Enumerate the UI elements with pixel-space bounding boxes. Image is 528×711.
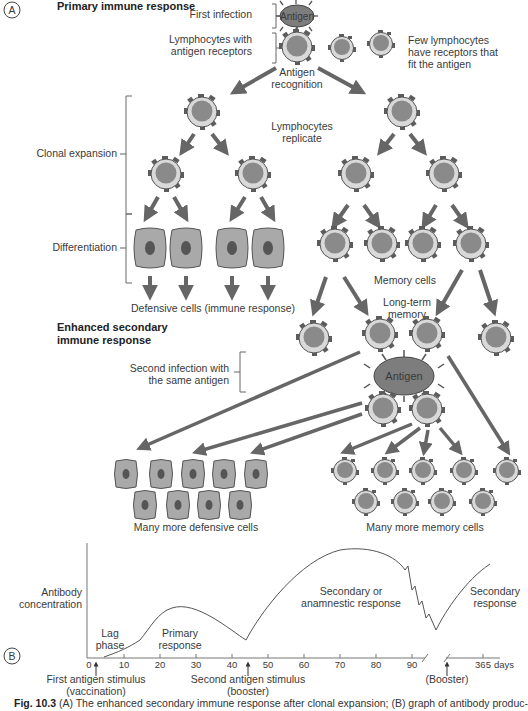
lag-phase-label: Lag	[101, 627, 119, 639]
panel-a-marker-label: A	[8, 4, 15, 16]
svg-text:90: 90	[407, 659, 418, 670]
secondary-response-title: Enhanced secondary	[57, 321, 169, 333]
few-lymphocytes-label: Few lymphocytes	[408, 34, 489, 46]
svg-text:concentration: concentration	[19, 598, 82, 610]
second-stimulus-label: Second antigen stimulus	[191, 673, 305, 685]
booster-label: (Booster)	[425, 673, 468, 685]
svg-text:recognition: recognition	[271, 78, 323, 90]
second-infection-label: Second infection with	[130, 362, 229, 374]
svg-text:(booster): (booster)	[227, 685, 269, 697]
svg-text:60: 60	[299, 659, 310, 670]
svg-text:memory: memory	[388, 308, 427, 320]
secondary-response-label: Secondary	[470, 585, 521, 597]
svg-text:response: response	[473, 597, 516, 609]
primary-response-label: Primary	[162, 627, 199, 639]
first-stimulus-label: First antigen stimulus	[46, 673, 145, 685]
svg-text:days: days	[494, 659, 514, 670]
primary-response-title: Primary immune response	[57, 0, 195, 12]
figure-caption: Fig. 10.3 (A) The enhanced secondary imm…	[14, 697, 528, 709]
svg-text:the same antigen: the same antigen	[148, 374, 229, 386]
panel-b-marker-label: B	[8, 650, 15, 662]
differentiation-label: Differentiation	[52, 241, 117, 253]
panel-b-chart: B Antibody concentration 0 10 20 30 40 5…	[4, 543, 521, 697]
svg-text:365: 365	[475, 659, 491, 670]
svg-text:Antigen: Antigen	[385, 370, 422, 382]
many-memory-cells-label: Many more memory cells	[366, 521, 483, 533]
antigen-recognition-label: Antigen	[279, 66, 315, 78]
svg-text:40: 40	[227, 659, 238, 670]
svg-text:70: 70	[335, 659, 346, 670]
first-infection-label: First infection	[190, 8, 253, 20]
panel-a: A Primary immune response First infectio…	[4, 0, 521, 533]
memory-cells-label: Memory cells	[374, 274, 436, 286]
x-tick-labels: 0 10 20 30 40 50 60 70 80 90 365 days	[86, 659, 514, 670]
y-axis-label: Antibody	[41, 586, 83, 598]
lymphocyte-icon	[367, 30, 395, 58]
svg-text:(vaccination): (vaccination)	[66, 685, 126, 697]
svg-text:50: 50	[263, 659, 274, 670]
lymph-receptors-label: Lymphocytes with	[169, 33, 252, 45]
secondary-anamnestic-label: Secondary or	[320, 585, 383, 597]
defensive-cell-icon	[134, 228, 166, 268]
lymphocyte-icon	[328, 34, 356, 62]
clonal-expansion-label: Clonal expansion	[36, 147, 117, 159]
lymphocytes-replicate-label: Lymphocytes	[271, 120, 332, 132]
figure-label: Fig. 10.3	[14, 697, 56, 709]
svg-text:replicate: replicate	[282, 132, 322, 144]
svg-text:10: 10	[119, 659, 130, 670]
many-defensive-cells-label: Many more defensive cells	[134, 521, 258, 533]
svg-text:response: response	[158, 639, 201, 651]
svg-text:80: 80	[371, 659, 382, 670]
svg-text:30: 30	[191, 659, 202, 670]
svg-text:0: 0	[86, 659, 91, 670]
long-term-memory-label: Long-term	[383, 296, 431, 308]
svg-text:20: 20	[155, 659, 166, 670]
defensive-cells-label: Defensive cells (immune response)	[131, 302, 295, 314]
svg-text:have receptors that: have receptors that	[408, 46, 498, 58]
svg-text:phase: phase	[96, 639, 125, 651]
svg-text:Antigen: Antigen	[280, 11, 314, 22]
svg-text:antigen receptors: antigen receptors	[171, 45, 252, 57]
caption-text: (A) The enhanced secondary immune respon…	[59, 697, 528, 709]
lymphocyte-icon	[279, 29, 315, 65]
antigen-icon: Antigen	[364, 350, 444, 402]
svg-text:fit the antigen: fit the antigen	[408, 58, 471, 70]
svg-text:immune response: immune response	[57, 334, 151, 346]
svg-text:anamnestic response: anamnestic response	[301, 597, 401, 609]
